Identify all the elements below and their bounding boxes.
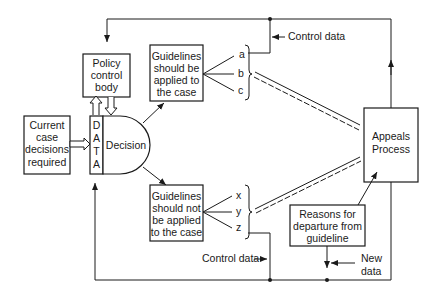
top-appeal-dashed-line: [254, 77, 359, 130]
control-data-top-label: Control data: [288, 30, 345, 42]
top-appeal-solid-line: [255, 72, 360, 125]
svg-text:Appeals: Appeals: [372, 130, 410, 142]
svg-text:the case: the case: [157, 86, 197, 98]
decision-to-applied-arrow: [143, 103, 164, 123]
policy-control-body-box: Policy control body: [83, 54, 130, 97]
svg-text:control: control: [91, 69, 123, 81]
current-case-box: Current case decisions required: [24, 116, 70, 174]
svg-text:decisions: decisions: [25, 143, 69, 155]
new-data-label-2: data: [361, 265, 382, 277]
svg-text:Policy: Policy: [92, 57, 121, 69]
svg-text:Decision: Decision: [106, 139, 146, 151]
svg-text:z: z: [236, 221, 241, 233]
svg-text:x: x: [236, 189, 242, 201]
svg-text:body: body: [95, 81, 119, 93]
svg-text:y: y: [236, 205, 242, 217]
control-data-bottom-label: Control data: [202, 252, 259, 264]
svg-text:be applied: be applied: [152, 214, 201, 226]
guidelines-applied-box: Guidelines should be applied to the case: [150, 45, 203, 101]
svg-text:T: T: [93, 145, 100, 157]
svg-text:A: A: [93, 132, 100, 144]
branches-bottom: x y z: [203, 185, 252, 239]
svg-text:D: D: [93, 119, 101, 131]
appeals-process-box: Appeals Process: [364, 108, 418, 182]
decision-to-not-applied-arrow: [143, 167, 166, 185]
svg-text:A: A: [93, 158, 100, 170]
svg-text:Process: Process: [372, 143, 410, 155]
svg-text:Guidelines: Guidelines: [152, 190, 202, 202]
svg-text:departure from: departure from: [293, 220, 362, 232]
decision-shape: Decision: [103, 116, 150, 174]
svg-text:Guidelines: Guidelines: [152, 50, 202, 62]
branches-top: a b c: [203, 45, 252, 100]
svg-text:to the case: to the case: [151, 226, 203, 238]
svg-text:case: case: [36, 131, 58, 143]
svg-text:should be: should be: [154, 62, 200, 74]
reasons-departure-box: Reasons for departure from guideline: [290, 205, 365, 246]
bottom-appeal-solid-line: [255, 157, 360, 209]
new-data-label-1: New: [361, 252, 382, 264]
case-to-data-arrow: [70, 138, 90, 150]
svg-text:should not: should not: [152, 202, 201, 214]
svg-text:b: b: [238, 67, 244, 79]
svg-text:applied to: applied to: [154, 74, 200, 86]
guideline-decision-diagram: Control data Control data New data Polic…: [0, 0, 437, 296]
svg-text:Current: Current: [29, 119, 64, 131]
policy-data-exchange-arrows: [90, 96, 117, 115]
guidelines-not-applied-box: Guidelines should not be applied to the …: [150, 185, 203, 241]
svg-text:required: required: [28, 156, 67, 168]
svg-text:c: c: [238, 84, 243, 96]
data-column: D A T A: [90, 116, 103, 174]
svg-text:guideline: guideline: [306, 232, 348, 244]
svg-text:a: a: [239, 48, 245, 60]
svg-text:Reasons for: Reasons for: [299, 208, 356, 220]
